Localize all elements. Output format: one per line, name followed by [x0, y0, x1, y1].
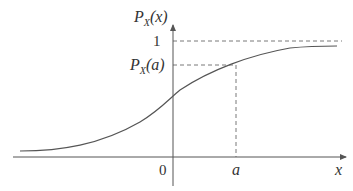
y-axis-label: PX(x) [133, 8, 168, 28]
cdf-curve [20, 46, 337, 151]
origin-label: 0 [159, 162, 167, 178]
pa-label: PX(a) [129, 56, 165, 76]
one-label: 1 [153, 33, 161, 49]
dashed-guide-pa [173, 65, 236, 157]
a-label: a [232, 161, 240, 178]
cdf-diagram: PX(x) 1 PX(a) 0 a x [0, 0, 353, 191]
x-axis-label: x [334, 161, 342, 178]
